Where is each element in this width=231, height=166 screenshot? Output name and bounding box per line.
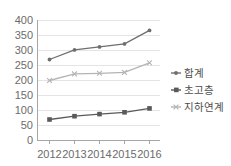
series-layer <box>47 29 152 122</box>
series-2 <box>47 106 152 122</box>
legend-item-2[interactable]: 지하연계 <box>171 101 224 113</box>
legend-item-0[interactable]: 합계 <box>171 67 204 79</box>
data-point <box>147 106 152 111</box>
series-line <box>50 30 150 59</box>
data-point <box>123 42 127 46</box>
y-tick-label: 150 <box>15 89 33 101</box>
legend-label-underground: 지하연계 <box>184 101 224 113</box>
data-point <box>73 48 77 52</box>
data-point <box>98 45 102 49</box>
y-tick-label: 400 <box>15 14 33 26</box>
y-tick-label: 250 <box>15 59 33 71</box>
data-point <box>47 117 52 122</box>
line-chart: 400 350 300 250 200 150 100 50 0 2012 20… <box>0 0 231 166</box>
y-tick-label: 300 <box>15 44 33 56</box>
y-tick-label: 50 <box>21 119 33 131</box>
legend-label-total: 합계 <box>184 67 204 79</box>
legend-item-1[interactable]: 초고층 <box>171 84 214 96</box>
y-tick-label: 0 <box>27 134 33 146</box>
series-1 <box>48 29 152 62</box>
data-point <box>72 114 77 119</box>
data-point <box>122 110 127 115</box>
data-point <box>148 29 152 33</box>
series-3 <box>47 60 152 83</box>
x-tick-marks <box>50 141 150 145</box>
y-tick-label: 350 <box>15 29 33 41</box>
legend-label-skyscraper: 초고층 <box>184 84 214 96</box>
x-tick-label: 2015 <box>112 148 136 160</box>
x-tick-label: 2012 <box>37 148 61 160</box>
x-tick-label: 2016 <box>137 148 161 160</box>
data-point <box>97 112 102 117</box>
y-tick-label: 200 <box>15 74 33 86</box>
x-tick-label: 2013 <box>62 148 86 160</box>
y-tick-label: 100 <box>15 104 33 116</box>
data-point <box>48 58 52 62</box>
chart-canvas: 400 350 300 250 200 150 100 50 0 2012 20… <box>0 0 231 166</box>
x-tick-label: 2014 <box>87 148 111 160</box>
legend: 합계 초고층 지하연계 <box>171 67 224 113</box>
